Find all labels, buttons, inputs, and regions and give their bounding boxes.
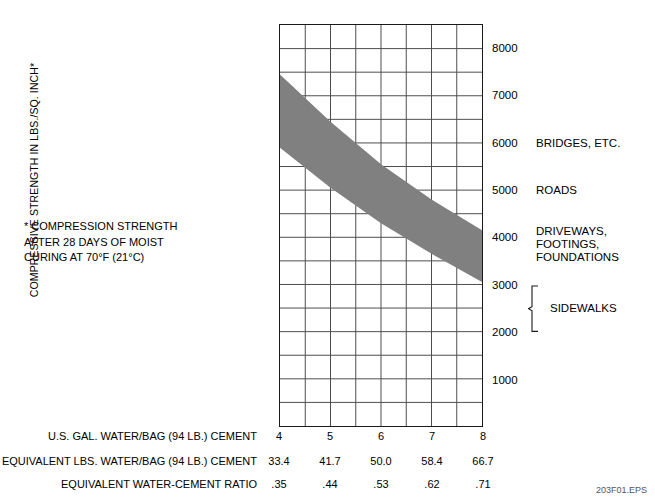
annotation-roads: ROADS	[536, 183, 577, 196]
compressive-strength-band	[280, 25, 482, 426]
y-axis-title: COMPRESSIVE STRENGTH IN LBS./SQ. INCH*	[28, 50, 40, 310]
y-axis-tick-4000: 4000	[492, 231, 518, 243]
y-axis-tick-8000: 8000	[492, 42, 518, 54]
cell-equivalent-lbs-water-per-bag-3: 58.4	[421, 455, 442, 467]
row-label-equivalent-water-cement-ratio: EQUIVALENT WATER-CEMENT RATIO	[61, 478, 257, 490]
cell-equivalent-lbs-water-per-bag-0: 33.4	[268, 455, 289, 467]
cell-equivalent-water-cement-ratio-3: .62	[424, 478, 439, 490]
bracket-icon	[528, 285, 542, 332]
y-axis-tick-5000: 5000	[492, 184, 518, 196]
cell-equivalent-lbs-water-per-bag-4: 66.7	[472, 455, 493, 467]
cell-equivalent-water-cement-ratio-0: .35	[271, 478, 286, 490]
row-label-us-gal-water-per-bag: U.S. GAL. WATER/BAG (94 LB.) CEMENT	[48, 430, 257, 442]
row-label-equivalent-lbs-water-per-bag: EQUIVALENT LBS. WATER/BAG (94 LB.) CEMEN…	[2, 455, 257, 467]
cell-us-gal-water-per-bag-1: 5	[327, 430, 333, 442]
cell-equivalent-lbs-water-per-bag-1: 41.7	[319, 455, 340, 467]
y-axis-tick-3000: 3000	[492, 279, 518, 291]
cell-us-gal-water-per-bag-3: 7	[429, 430, 435, 442]
sidewalks-label: SIDEWALKS	[550, 302, 617, 314]
cell-equivalent-water-cement-ratio-2: .53	[373, 478, 388, 490]
y-axis-tick-1000: 1000	[492, 374, 518, 386]
chart-plot-area	[279, 24, 483, 427]
cell-us-gal-water-per-bag-0: 4	[276, 430, 282, 442]
sidewalks-annotation-group: SIDEWALKS	[528, 285, 638, 332]
eps-code-label: 203F01.EPS	[596, 485, 647, 495]
footnote-compression-strength: * COMPRESSION STRENGTH AFTER 28 DAYS OF …	[24, 219, 244, 266]
annotation-driveways: DRIVEWAYS, FOOTINGS, FOUNDATIONS	[536, 226, 655, 265]
y-axis-tick-2000: 2000	[492, 326, 518, 338]
cell-us-gal-water-per-bag-4: 8	[480, 430, 486, 442]
y-axis-tick-7000: 7000	[492, 89, 518, 101]
cell-us-gal-water-per-bag-2: 6	[378, 430, 384, 442]
annotation-bridges: BRIDGES, ETC.	[536, 136, 620, 149]
cell-equivalent-water-cement-ratio-4: .71	[475, 478, 490, 490]
cell-equivalent-lbs-water-per-bag-2: 50.0	[370, 455, 391, 467]
cell-equivalent-water-cement-ratio-1: .44	[322, 478, 337, 490]
y-axis-tick-6000: 6000	[492, 137, 518, 149]
